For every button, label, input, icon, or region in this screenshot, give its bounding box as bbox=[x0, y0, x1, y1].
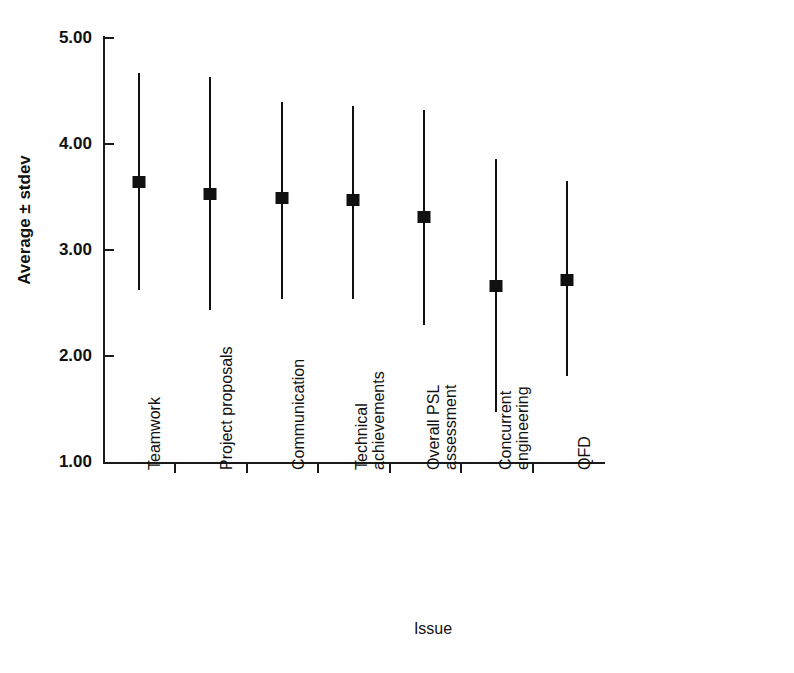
x-category-label-line: Teamwork bbox=[146, 397, 163, 470]
x-category-label-line: Concurrent bbox=[497, 386, 514, 470]
x-axis-tick-4 bbox=[389, 464, 391, 473]
y-axis-tick-2 bbox=[105, 355, 114, 357]
x-category-label-line: Technical bbox=[353, 371, 370, 470]
x-category-label-line: Overall PSL bbox=[425, 385, 442, 470]
x-axis-title: Issue bbox=[0, 620, 794, 638]
y-axis-tick-5 bbox=[105, 37, 114, 39]
x-category-label-line: achievements bbox=[370, 371, 387, 470]
y-tick-label-5: 5.00 bbox=[59, 28, 92, 48]
data-point-marker bbox=[347, 194, 360, 206]
data-point-marker bbox=[418, 211, 431, 223]
y-axis-tick-labels: 5.00 4.00 3.00 2.00 1.00 bbox=[0, 0, 100, 673]
x-axis-tick-3 bbox=[317, 464, 319, 473]
x-axis-tick-6 bbox=[532, 464, 534, 473]
x-category-label-line: QFD bbox=[576, 436, 593, 470]
y-tick-label-2: 2.00 bbox=[59, 346, 92, 366]
x-category-label-line: Project proposals bbox=[218, 346, 235, 470]
x-category-label-line: assessment bbox=[442, 385, 459, 470]
data-point-marker bbox=[132, 176, 145, 188]
y-tick-label-4: 4.00 bbox=[59, 134, 92, 154]
x-category-label-line: engineering bbox=[514, 386, 531, 470]
data-point-marker bbox=[275, 192, 288, 204]
x-axis-tick-1 bbox=[174, 464, 176, 473]
data-point-marker bbox=[489, 280, 502, 292]
x-category-label-line: Communication bbox=[290, 359, 307, 470]
y-tick-label-3: 3.00 bbox=[59, 240, 92, 260]
y-axis-tick-4 bbox=[105, 143, 114, 145]
y-tick-label-1: 1.00 bbox=[59, 452, 92, 472]
data-point-marker bbox=[561, 274, 574, 286]
chart-figure: Average ± stdev 5.00 4.00 3.00 2.00 1.00… bbox=[0, 0, 794, 673]
data-point-marker bbox=[204, 188, 217, 200]
x-axis-tick-2 bbox=[246, 464, 248, 473]
y-axis-tick-3 bbox=[105, 249, 114, 251]
x-axis-tick-5 bbox=[460, 464, 462, 473]
